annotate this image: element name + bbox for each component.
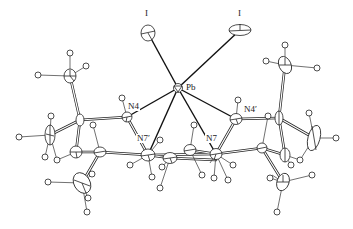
label-iodine-left: I <box>144 9 149 18</box>
label-n7-prime: N7′ <box>136 134 151 143</box>
molecular-structure-diagram: I I Pb N4 N4′ N7′ N7 <box>0 0 353 229</box>
bond-pb-n7prime <box>148 88 178 155</box>
ligand-bonds-outer <box>50 65 314 183</box>
atom-n7 <box>210 149 222 161</box>
label-n7: N7 <box>205 134 218 143</box>
atom-n4prime <box>230 114 242 125</box>
ortep-drawing <box>0 0 353 229</box>
atom-iodine-right <box>229 24 251 36</box>
atom-n7prime <box>141 149 155 161</box>
label-n4-prime: N4′ <box>243 105 258 114</box>
thermal-ellipsoids <box>45 24 323 197</box>
label-n4: N4 <box>127 102 140 111</box>
atom-n4 <box>122 112 132 122</box>
bond-pb-i-right <box>178 30 240 88</box>
atom-lead <box>174 84 183 93</box>
ligand-bonds-inner <box>50 65 314 183</box>
label-lead: Pb <box>185 83 197 92</box>
label-iodine-right: I <box>237 9 242 18</box>
bond-pb-i-left <box>148 33 178 88</box>
atom-iodine-left <box>141 25 155 41</box>
